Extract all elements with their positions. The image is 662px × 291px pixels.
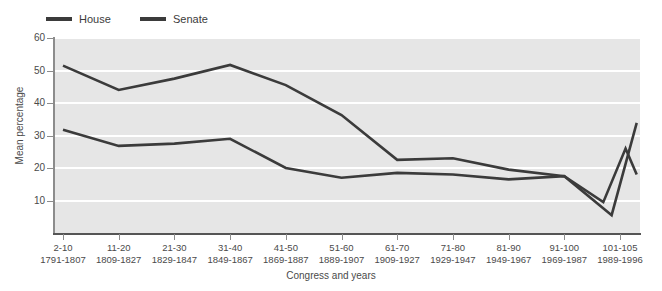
x-axis-line — [53, 233, 641, 235]
x-axis-tick — [397, 234, 398, 240]
x-axis-tick — [119, 234, 120, 240]
x-axis-tick — [342, 234, 343, 240]
legend-label-house: House — [79, 10, 111, 28]
y-axis-title: Mean percentage — [14, 61, 25, 191]
y-axis-line — [53, 37, 55, 234]
x-axis-tick — [63, 234, 64, 240]
legend-swatch-senate — [140, 17, 166, 21]
chart-legend: House Senate — [0, 10, 662, 30]
y-axis-tick — [47, 38, 53, 39]
series-line-senate — [63, 65, 637, 202]
series-line-house — [63, 123, 637, 215]
legend-item-house: House — [46, 10, 111, 28]
y-axis-tick — [47, 71, 53, 72]
series-lines — [54, 38, 640, 233]
chart-figure: House Senate 102030405060 2-101791-18071… — [0, 0, 662, 291]
x-axis-tick — [620, 234, 621, 240]
x-axis-title: Congress and years — [0, 270, 662, 281]
x-axis-tick-label: 101-1051989-1996 — [580, 242, 660, 266]
x-axis-tick — [564, 234, 565, 240]
plot-area — [54, 38, 640, 233]
x-axis-tick — [509, 234, 510, 240]
y-axis-title-wrap: Mean percentage — [0, 0, 30, 291]
legend-label-senate: Senate — [173, 10, 208, 28]
x-axis-tick — [453, 234, 454, 240]
x-axis-tick — [174, 234, 175, 240]
y-axis-tick — [47, 168, 53, 169]
x-axis-tick — [286, 234, 287, 240]
x-axis-tick — [230, 234, 231, 240]
y-axis-tick — [47, 201, 53, 202]
y-axis-tick — [47, 103, 53, 104]
legend-swatch-house — [46, 17, 72, 21]
y-axis-tick — [47, 136, 53, 137]
legend-item-senate: Senate — [140, 10, 208, 28]
